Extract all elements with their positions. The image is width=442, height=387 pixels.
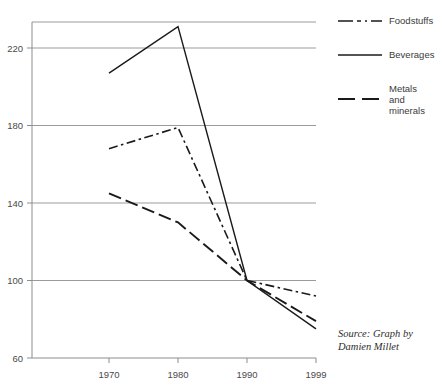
series-line-metals [109, 193, 316, 321]
xtick-label-1999: 1999 [305, 369, 326, 380]
ytick-label-140: 140 [7, 198, 23, 209]
line-chart-svg: 220 180 140 100 60 1970 1980 1990 1999 [0, 0, 330, 387]
x-axis-tick-labels: 1970 1980 1990 1999 [98, 369, 326, 380]
dash-dot-line-icon [338, 14, 382, 28]
ytick-label-220: 220 [7, 43, 23, 54]
solid-line-icon [338, 48, 382, 62]
chart-plot-area: 220 180 140 100 60 1970 1980 1990 1999 [0, 0, 330, 387]
legend-label-beverages: Beverages [389, 48, 434, 60]
chart-page: 220 180 140 100 60 1970 1980 1990 1999 [0, 0, 442, 387]
chart-legend: Foodstuffs Beverages Metals and minerals [338, 14, 442, 136]
ytick-label-180: 180 [7, 120, 23, 131]
xtick-label-1980: 1980 [167, 369, 188, 380]
legend-item-beverages: Beverages [338, 48, 442, 62]
xtick-label-1990: 1990 [236, 369, 257, 380]
legend-item-foodstuffs: Foodstuffs [338, 14, 442, 28]
series-line-beverages [109, 27, 316, 329]
grid-and-axes [27, 22, 316, 363]
long-dash-line-icon [338, 92, 382, 106]
legend-label-foodstuffs: Foodstuffs [389, 14, 433, 26]
ytick-label-100: 100 [7, 275, 23, 286]
xtick-label-1970: 1970 [98, 369, 119, 380]
y-axis-tick-labels: 220 180 140 100 60 [7, 43, 23, 364]
legend-label-metals-and-minerals: Metals and minerals [389, 82, 425, 116]
ytick-label-60: 60 [12, 353, 23, 364]
legend-item-metals-and-minerals: Metals and minerals [338, 82, 442, 116]
source-note: Source: Graph by Damien Millet [338, 327, 442, 353]
data-series-group [109, 27, 316, 329]
